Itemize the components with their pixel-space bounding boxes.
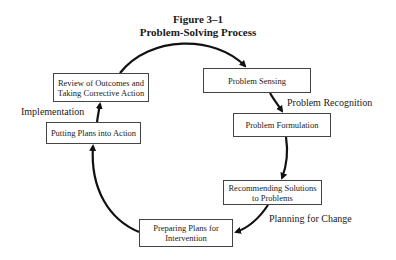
arrow-putting-to-review (97, 104, 100, 122)
node-problem-formulation: Problem Formulation (233, 113, 331, 137)
arrow-sensing-to-formulation (270, 93, 282, 111)
phase-label-planning: Planning for Change (269, 213, 352, 224)
arrow-formulation-to-recommending (282, 137, 287, 178)
node-preparing-plans: Preparing Plans for Intervention (139, 219, 233, 247)
node-problem-sensing: Problem Sensing (203, 68, 311, 93)
node-review-outcomes: Review of Outcomes and Taking Corrective… (53, 73, 149, 102)
phase-label-recognition: Problem Recognition (287, 97, 372, 108)
phase-label-implementation: Implementation (21, 106, 84, 117)
node-recommending-solutions: Recommending Solutions to Problems (223, 180, 322, 205)
node-putting-plans-into-action: Putting Plans into Action (46, 122, 141, 144)
arrow-preparing-to-putting (93, 146, 139, 232)
arrow-recommending-to-preparing (236, 205, 268, 232)
